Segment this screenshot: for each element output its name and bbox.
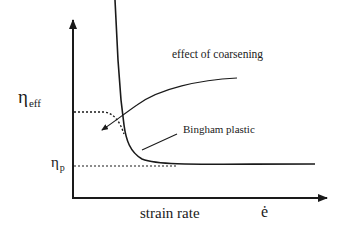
strain-rate-symbol: ė	[261, 203, 268, 221]
eta-symbol: η	[18, 86, 28, 107]
bingham-plastic-curve	[115, 0, 315, 164]
viscosity-strain-rate-diagram	[0, 0, 344, 231]
y-axis-label: ηeff	[18, 86, 41, 109]
p-subscript: p	[60, 162, 65, 173]
eff-subscript: eff	[29, 97, 41, 109]
bingham-annotation-label: Bingham plastic	[183, 123, 255, 135]
coarsening-annotation-label: effect of coarsening	[172, 48, 263, 60]
eta-p-symbol: η	[51, 154, 59, 170]
eta-p-label: ηp	[51, 154, 65, 173]
x-axis-label: strain rate	[140, 205, 200, 222]
bingham-annotation-pointer	[142, 134, 177, 150]
coarsening-dotted-curve	[74, 112, 124, 134]
